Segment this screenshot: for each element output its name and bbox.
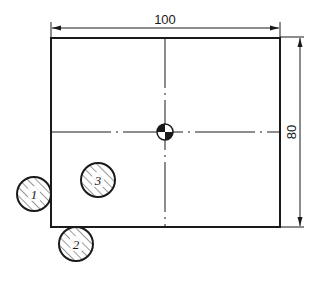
height-dimension-label: 80 (284, 125, 299, 139)
pin-2-label: 2 (73, 237, 80, 252)
width-dimension: 100 (51, 12, 280, 38)
technical-drawing: 100 80 1 2 3 (0, 0, 319, 282)
pin-1-label: 1 (31, 187, 38, 202)
locator-pin-2: 2 (59, 227, 93, 261)
height-dimension: 80 (280, 37, 304, 227)
locator-pin-1: 1 (17, 177, 51, 211)
locator-pin-3: 3 (81, 163, 115, 197)
center-of-gravity-icon (157, 124, 173, 140)
width-dimension-label: 100 (154, 12, 176, 27)
pin-3-label: 3 (94, 173, 102, 188)
